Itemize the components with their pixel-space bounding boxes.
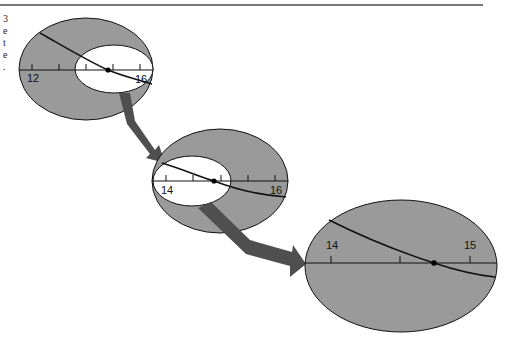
axis-label: 14 (326, 239, 338, 251)
lens-panel-1: 12 16 (19, 18, 153, 120)
highlighted-point (105, 67, 110, 72)
axis-label: 14 (161, 184, 173, 196)
zoom-diagram: 12 16 14 16 14 15 (0, 0, 515, 348)
lens-panel-3: 14 15 (305, 200, 497, 332)
highlighted-point (211, 178, 216, 183)
zoom-arrow-1 (119, 93, 165, 163)
axis-label: 16 (270, 184, 282, 196)
highlighted-point (431, 260, 437, 266)
axis-label: 12 (27, 72, 39, 84)
axis-label: 16 (135, 73, 147, 85)
outer-lens (305, 200, 497, 332)
axis-label: 15 (464, 239, 476, 251)
inner-zoom-region (75, 45, 153, 93)
